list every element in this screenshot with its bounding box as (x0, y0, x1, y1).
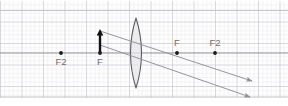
focal-point-dot (213, 51, 217, 55)
focal-label-right-f: F (174, 37, 180, 48)
ray-diagram-canvas: F2 F F F2 (0, 0, 288, 106)
focal-point-dot (175, 51, 179, 55)
focal-point-dot (98, 51, 102, 55)
focal-label-right-f2: F2 (209, 37, 220, 48)
focal-label-left-f2: F2 (55, 56, 66, 67)
focal-label-left-f: F (97, 56, 103, 67)
focal-point-dot (59, 51, 63, 55)
optics-diagram-svg: F2 F F F2 (0, 0, 288, 106)
